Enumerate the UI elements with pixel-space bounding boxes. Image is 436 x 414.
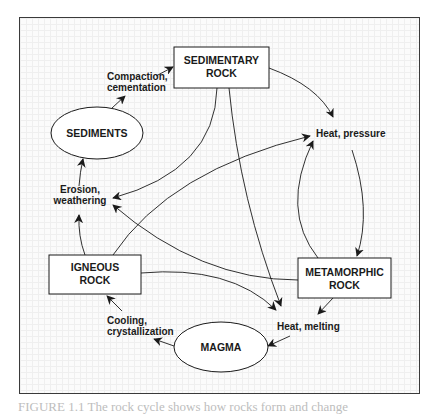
process-cooling: Cooling, crystallization — [107, 315, 174, 337]
node-label: ROCK — [206, 67, 237, 79]
process-label: weathering — [53, 195, 107, 206]
edge-sediments-compaction — [112, 96, 125, 108]
node-label: SEDIMENTARY — [184, 54, 259, 66]
node-sediments: SEDIMENTS — [51, 107, 143, 159]
process-label: cementation — [107, 82, 166, 93]
process-label: Cooling, — [107, 315, 147, 326]
node-magma: MAGMA — [174, 322, 268, 372]
process-label: Heat, pressure — [316, 128, 386, 139]
edge-metamorphic-heatpressure — [298, 141, 318, 258]
process-label: Erosion, — [60, 184, 100, 195]
node-label: ROCK — [329, 279, 360, 291]
edge-heatmelting-magma — [268, 336, 290, 346]
node-sedimentary-rock: SEDIMENTARY ROCK — [174, 47, 269, 88]
node-label: ROCK — [80, 274, 111, 286]
process-erosion: Erosion, weathering — [53, 184, 107, 206]
edge-igneous-heatmelting — [141, 272, 276, 310]
process-heat-melting: Heat, melting — [277, 321, 340, 332]
process-label: Heat, melting — [277, 321, 340, 332]
node-metamorphic-rock: METAMORPHIC ROCK — [298, 258, 391, 298]
process-label: Compaction, — [107, 71, 168, 82]
edge-sedimentary-heatpressure — [269, 68, 333, 117]
edge-igneous-erosion — [79, 215, 85, 255]
node-label: IGNEOUS — [71, 261, 119, 273]
edges — [79, 67, 364, 346]
node-label: METAMORPHIC — [305, 266, 384, 278]
process-label: crystallization — [107, 326, 174, 337]
node-igneous-rock: IGNEOUS ROCK — [49, 255, 141, 294]
edge-metamorphic-heatmelting — [318, 298, 333, 314]
edge-heatpressure-metamorphic — [352, 150, 363, 256]
figure-caption: FIGURE 1.1 The rock cycle shows how rock… — [18, 400, 418, 414]
edge-erosion-sediments — [79, 159, 83, 186]
edge-magma-cooling — [154, 339, 174, 346]
edge-sedimentary-heatmelting — [229, 88, 281, 306]
process-compaction: Compaction, cementation — [107, 71, 168, 93]
edge-cooling-igneous — [107, 296, 122, 311]
node-label: SEDIMENTS — [66, 127, 127, 139]
process-heat-pressure: Heat, pressure — [316, 128, 386, 139]
edge-igneous-heatpressure — [113, 136, 310, 255]
node-label: MAGMA — [201, 341, 242, 353]
